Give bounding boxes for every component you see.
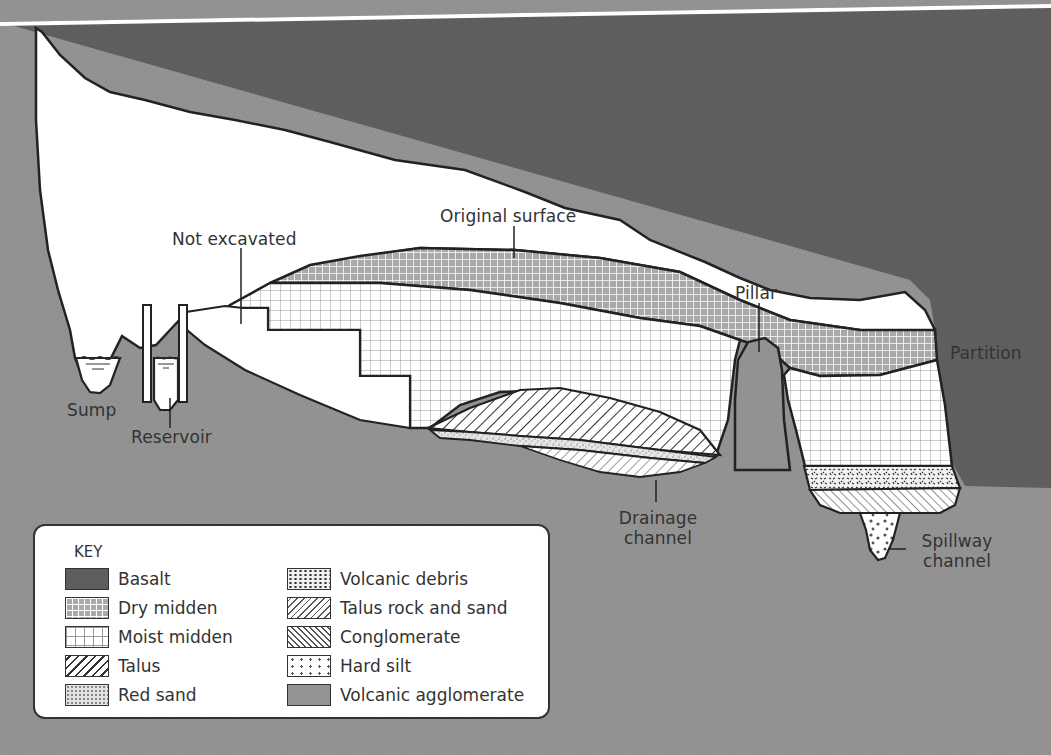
legend-key: KEY Basalt Dry midden Moist midden Talus… bbox=[33, 524, 550, 719]
moist-midden-swatch-icon bbox=[65, 626, 109, 648]
conglomerate-band bbox=[810, 488, 960, 513]
label-drainage-line1: Drainage bbox=[615, 508, 701, 528]
key-item-dry-midden: Dry midden bbox=[65, 593, 233, 622]
reservoir bbox=[154, 358, 178, 410]
key-left-column: Basalt Dry midden Moist midden Talus Red… bbox=[65, 564, 233, 709]
key-item-talus-rock-and-sand: Talus rock and sand bbox=[287, 593, 524, 622]
key-title: KEY bbox=[74, 543, 102, 561]
conglomerate-swatch-icon bbox=[287, 626, 331, 648]
label-drainage-line2: channel bbox=[615, 528, 701, 548]
key-item-red-sand: Red sand bbox=[65, 680, 233, 709]
key-item-moist-midden: Moist midden bbox=[65, 622, 233, 651]
label-drainage-channel: Drainage channel bbox=[615, 508, 701, 548]
label-spillway-line2: channel bbox=[912, 551, 1002, 571]
volcanic-debris-swatch-icon bbox=[287, 568, 331, 590]
key-right-column: Volcanic debris Talus rock and sand Cong… bbox=[287, 564, 524, 709]
label-reservoir: Reservoir bbox=[131, 427, 212, 447]
reservoir-wall-right bbox=[179, 305, 187, 402]
volcanic-agglomerate-swatch-icon bbox=[287, 684, 331, 706]
dry-midden-swatch-icon bbox=[65, 597, 109, 619]
label-pillar: Pillar bbox=[735, 283, 777, 303]
key-item-talus: Talus bbox=[65, 651, 233, 680]
key-item-conglomerate: Conglomerate bbox=[287, 622, 524, 651]
red-sand-swatch-icon bbox=[65, 684, 109, 706]
key-item-hard-silt: Hard silt bbox=[287, 651, 524, 680]
talus-swatch-icon bbox=[65, 655, 109, 677]
volcanic-debris-band bbox=[804, 466, 960, 490]
label-spillway-channel: Spillway channel bbox=[912, 531, 1002, 571]
key-item-volcanic-debris: Volcanic debris bbox=[287, 564, 524, 593]
label-sump: Sump bbox=[67, 400, 116, 420]
key-item-basalt: Basalt bbox=[65, 564, 233, 593]
basalt-swatch-icon bbox=[65, 568, 109, 590]
key-item-volcanic-agglomerate: Volcanic agglomerate bbox=[287, 680, 524, 709]
talus-rock-sand-swatch-icon bbox=[287, 597, 331, 619]
label-original-surface: Original surface bbox=[440, 206, 576, 226]
label-spillway-line1: Spillway bbox=[912, 531, 1002, 551]
label-not-excavated: Not excavated bbox=[172, 229, 297, 249]
label-partition: Partition bbox=[950, 343, 1022, 363]
reservoir-wall-left bbox=[143, 305, 151, 402]
hard-silt-swatch-icon bbox=[287, 655, 331, 677]
moist-midden-layer-right bbox=[784, 360, 952, 466]
